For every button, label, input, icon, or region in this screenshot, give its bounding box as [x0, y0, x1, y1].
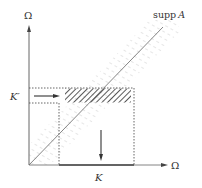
support-label-operator: A: [177, 9, 185, 20]
k-label: K: [94, 172, 103, 183]
arrow-up-icon: [27, 25, 31, 32]
right-arrow: [34, 94, 60, 98]
arrow-down-icon: [99, 154, 103, 161]
horizontal-axis-label: Ω: [171, 160, 179, 171]
support-label: suppA: [153, 9, 185, 20]
arrow-right-icon: [161, 163, 168, 167]
support-label-text: supp: [153, 9, 176, 20]
down-arrow: [99, 130, 103, 161]
vertical-axis-label: Ω: [24, 10, 32, 21]
support-diagram: Ω Ω suppA K′ K: [0, 0, 202, 188]
k-prime-label: K′: [9, 91, 20, 102]
arrow-right-icon: [53, 94, 60, 98]
dark-hatched-region: [65, 89, 131, 103]
